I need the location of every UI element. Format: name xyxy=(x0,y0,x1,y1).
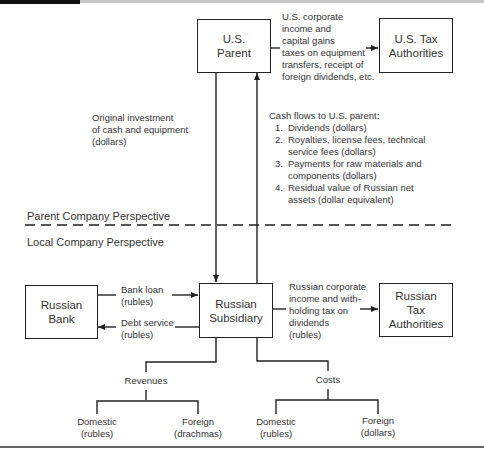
costs-label: Costs xyxy=(303,374,353,386)
us-parent-label: U.S. Parent xyxy=(217,32,251,60)
cost-foreign-label: Foreign(dollars) xyxy=(353,415,403,439)
cash-flows-title: Cash flows to U.S. parent: xyxy=(269,110,425,122)
cash-flows-label: Cash flows to U.S. parent: 1.Dividends (… xyxy=(269,110,425,206)
cash-flow-item: 2.Royalties, license fees, technicalserv… xyxy=(269,134,425,158)
revenues-label: Revenues xyxy=(116,375,176,387)
russian-subsidiary-label: Russian Subsidiary xyxy=(209,297,263,325)
cash-flow-item: 1.Dividends (dollars) xyxy=(269,122,425,134)
debt-service-label: Debt service (rubles) xyxy=(121,317,174,341)
cash-flow-item: 3.Payments for raw materials andcomponen… xyxy=(269,158,425,182)
cost-domestic-label: Domestic(rubles) xyxy=(251,416,301,440)
russian-tax-authorities-label: Russian Tax Authorities xyxy=(389,289,443,331)
us-tax-flow-label: U.S. corporate income and capital gains … xyxy=(282,11,374,83)
russian-subsidiary-node: Russian Subsidiary xyxy=(199,283,273,338)
parent-perspective-label: Parent Company Perspective xyxy=(27,210,170,222)
bank-loan-label: Bank loan (rubles) xyxy=(121,284,163,308)
us-parent-node: U.S. Parent xyxy=(197,19,271,73)
us-tax-authorities-label: U.S. Tax Authorities xyxy=(389,32,443,60)
us-tax-authorities-node: U.S. Tax Authorities xyxy=(379,18,453,73)
russian-tax-flow-label: Russian corporate income and with- holdi… xyxy=(289,281,366,341)
revenue-domestic-label: Domestic(rubles) xyxy=(72,416,122,440)
cash-flow-item: 4.Residual value of Russian netassets (d… xyxy=(269,182,425,206)
revenue-foreign-label: Foreign(drachmas) xyxy=(168,416,228,440)
original-investment-label: Original investment of cash and equipmen… xyxy=(92,112,188,148)
cash-flows-list: 1.Dividends (dollars) 2.Royalties, licen… xyxy=(269,122,425,206)
local-perspective-label: Local Company Perspective xyxy=(27,236,164,248)
russian-bank-node: Russian Bank xyxy=(25,285,98,339)
russian-tax-authorities-node: Russian Tax Authorities xyxy=(379,283,453,337)
russian-bank-label: Russian Bank xyxy=(41,298,83,326)
